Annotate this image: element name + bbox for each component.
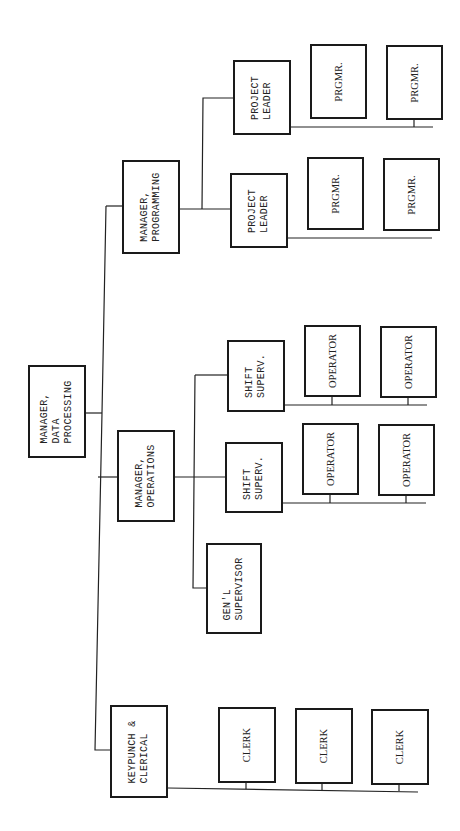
box-prgmr-1: PRGMR.	[310, 44, 367, 119]
box-manager-programming: MANAGER, PROGRAMMING	[122, 160, 180, 254]
box-clerk-2: CLERK	[295, 708, 353, 784]
box-manager-data-processing: MANAGER, DATA PROCESSING	[28, 365, 86, 458]
box-genl-supervisor: GEN'L SUPERVISOR	[206, 543, 262, 634]
label-prgmr: PRGMR.	[333, 62, 345, 101]
label-operator: OPERATOR	[403, 335, 415, 389]
box-manager-operations: MANAGER, OPERATIONS	[117, 430, 175, 522]
label-operator: OPERATOR	[401, 433, 413, 487]
label-prgmr: PRGMR.	[409, 63, 421, 102]
box-project-leader-2: PROJECT LEADER	[230, 173, 288, 248]
label-operator: OPERATOR	[327, 334, 339, 388]
box-project-leader-1: PROJECT LEADER	[233, 60, 291, 135]
label-manager-operations: MANAGER, OPERATIONS	[134, 444, 158, 507]
box-prgmr-3: PRGMR.	[307, 157, 364, 230]
box-operator-2: OPERATOR	[380, 326, 437, 398]
label-project-leader: PROJECT LEADER	[250, 75, 274, 119]
box-clerk-1: CLERK	[218, 707, 276, 783]
label-prgmr: PRGMR.	[330, 174, 342, 213]
box-keypunch-clerical: KEYPUNCH & CLERICAL	[110, 705, 168, 798]
org-chart: MANAGER, DATA PROCESSING MANAGER, PROGRA…	[0, 0, 460, 831]
label-project-leader: PROJECT LEADER	[247, 188, 271, 232]
box-operator-3: OPERATOR	[302, 423, 359, 495]
box-clerk-3: CLERK	[371, 709, 429, 785]
label-keypunch-clerical: KEYPUNCH & CLERICAL	[127, 720, 151, 783]
label-manager-data-processing: MANAGER, DATA PROCESSING	[39, 380, 75, 443]
box-shift-superv-1: SHIFT SUPERV.	[227, 340, 285, 412]
label-clerk: CLERK	[241, 728, 253, 762]
box-prgmr-2: PRGMR.	[386, 45, 443, 120]
box-operator-4: OPERATOR	[378, 424, 435, 496]
label-shift-superv: SHIFT SUPERV.	[242, 455, 266, 499]
label-genl-supervisor: GEN'L SUPERVISOR	[222, 557, 246, 620]
box-prgmr-4: PRGMR.	[383, 158, 440, 231]
label-clerk: CLERK	[394, 730, 406, 764]
label-prgmr: PRGMR.	[406, 175, 418, 214]
box-operator-1: OPERATOR	[304, 325, 361, 397]
label-clerk: CLERK	[318, 729, 330, 763]
box-shift-superv-2: SHIFT SUPERV.	[225, 442, 283, 513]
label-manager-programming: MANAGER, PROGRAMMING	[139, 172, 163, 241]
label-shift-superv: SHIFT SUPERV.	[244, 354, 268, 398]
label-operator: OPERATOR	[325, 432, 337, 486]
